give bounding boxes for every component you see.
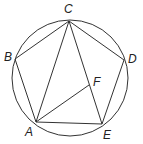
point-label-c: C bbox=[64, 2, 73, 16]
point-label-d: D bbox=[128, 52, 137, 66]
segment-ca bbox=[36, 21, 69, 122]
point-label-e: E bbox=[103, 128, 112, 142]
segment-ab bbox=[15, 59, 36, 122]
segment-ce bbox=[69, 21, 102, 124]
circumscribed-circle bbox=[12, 20, 128, 136]
geometry-diagram: ABCDEF bbox=[0, 0, 143, 144]
segment-af bbox=[36, 85, 89, 122]
point-label-f: F bbox=[93, 75, 101, 89]
segments bbox=[15, 21, 124, 124]
point-label-b: B bbox=[4, 50, 12, 64]
point-label-a: A bbox=[24, 125, 33, 139]
segment-de bbox=[102, 60, 124, 124]
segment-ea bbox=[36, 122, 102, 124]
point-labels: ABCDEF bbox=[4, 2, 137, 142]
